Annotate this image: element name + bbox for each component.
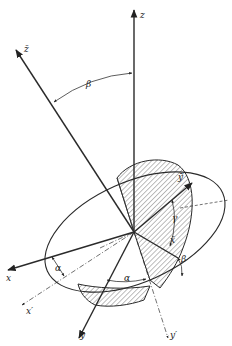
rotation-diagram: z z̄ β ȳ γ x̄ β x α α x′ y y′ bbox=[0, 0, 232, 346]
x-bar-label: x̄ bbox=[170, 235, 175, 245]
z-bar-axis bbox=[16, 50, 134, 232]
beta-top-label: β bbox=[85, 79, 91, 89]
y-prime-label: y′ bbox=[169, 330, 177, 340]
z-label: z bbox=[139, 10, 145, 20]
x-prime-label: x′ bbox=[26, 306, 33, 316]
y-label: y bbox=[79, 330, 86, 340]
hatched-tilted-plane-lower bbox=[78, 284, 150, 306]
alpha-left-label: α bbox=[55, 263, 61, 273]
x-axis bbox=[8, 232, 134, 270]
y-axis bbox=[79, 232, 134, 338]
y-bar-label: ȳ bbox=[177, 172, 184, 182]
z-bar-label: z̄ bbox=[23, 44, 29, 54]
x-label: x bbox=[6, 273, 11, 283]
gamma-label: γ bbox=[172, 213, 178, 223]
alpha-bottom-label: α bbox=[124, 273, 130, 283]
beta-angle-arc-top bbox=[54, 73, 132, 102]
beta-right-label: β bbox=[180, 254, 186, 264]
